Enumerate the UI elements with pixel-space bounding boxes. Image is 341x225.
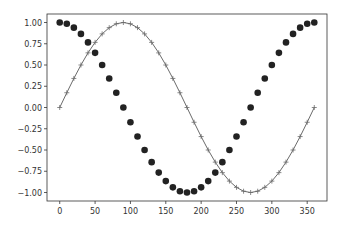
plus-marker (128, 21, 133, 26)
circle-marker (99, 62, 106, 69)
y-tick-label: 0.50 (24, 61, 42, 70)
circle-marker (141, 147, 148, 154)
y-tick-label: −0.50 (17, 146, 42, 155)
y-tick-label: 0.25 (24, 82, 42, 91)
plus-marker (298, 134, 303, 139)
plus-marker (291, 148, 296, 153)
circle-marker (127, 119, 134, 126)
circle-marker (134, 133, 141, 140)
circle-marker (148, 159, 155, 166)
plus-marker (312, 105, 317, 110)
circle-marker (233, 133, 240, 140)
circle-marker (276, 50, 283, 57)
circle-marker (240, 119, 247, 126)
plus-marker (64, 90, 69, 95)
circle-marker (261, 75, 268, 82)
circle-marker (120, 104, 127, 111)
y-tick-label: −0.25 (17, 125, 42, 134)
circle-marker (177, 188, 184, 195)
x-tick-label: 50 (90, 207, 100, 216)
x-tick-label: 0 (57, 207, 62, 216)
circle-marker (219, 159, 226, 166)
circle-marker (63, 20, 70, 27)
circle-marker (254, 89, 261, 96)
circle-marker (184, 189, 191, 196)
circle-marker (304, 20, 311, 27)
plus-marker (78, 63, 83, 68)
plus-marker (57, 105, 62, 110)
plus-marker (163, 63, 168, 68)
plus-marker (248, 190, 253, 195)
x-tick-label: 250 (229, 207, 244, 216)
plus-marker (241, 189, 246, 194)
circle-marker (212, 169, 219, 176)
circle-marker (191, 188, 198, 195)
circle-marker (269, 62, 276, 69)
plus-marker (121, 20, 126, 25)
circle-marker (85, 39, 92, 46)
circle-marker (170, 184, 177, 191)
circle-marker (198, 184, 205, 191)
plus-marker (255, 189, 260, 194)
plus-marker (185, 105, 190, 110)
circle-marker (226, 147, 233, 154)
x-tick-label: 100 (123, 207, 138, 216)
plus-marker (305, 120, 310, 125)
x-tick-label: 200 (194, 207, 209, 216)
y-tick-label: 1.00 (24, 19, 42, 28)
y-tick-label: 0.75 (24, 40, 42, 49)
plus-marker (192, 120, 197, 125)
plot-area (56, 19, 317, 196)
circle-marker (247, 104, 254, 111)
y-tick-label: −0.75 (17, 167, 42, 176)
plus-marker (206, 148, 211, 153)
circle-marker (297, 24, 304, 31)
plus-marker (114, 21, 119, 26)
plus-marker (170, 76, 175, 81)
x-tick-label: 300 (264, 207, 279, 216)
circle-marker (56, 19, 63, 26)
x-tick-label: 350 (300, 207, 315, 216)
circle-marker (205, 178, 212, 185)
circle-marker (92, 50, 99, 57)
plus-marker (71, 76, 76, 81)
circle-marker (155, 169, 162, 176)
plus-marker (199, 134, 204, 139)
y-tick-label: −1.00 (17, 189, 42, 198)
x-tick-label: 150 (158, 207, 173, 216)
circle-marker (71, 24, 78, 31)
chart: 0501001502002503003501.000.750.500.250.0… (0, 0, 341, 225)
circle-marker (106, 75, 113, 82)
circle-marker (283, 39, 290, 46)
circle-marker (113, 89, 120, 96)
circle-marker (162, 178, 169, 185)
y-tick-label: 0.00 (24, 104, 42, 113)
circle-marker (290, 31, 297, 38)
plus-marker (177, 90, 182, 95)
circle-marker (78, 31, 85, 38)
circle-marker (311, 19, 318, 26)
